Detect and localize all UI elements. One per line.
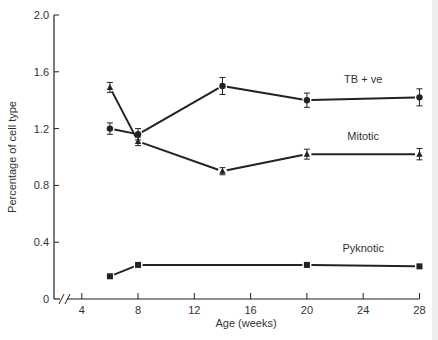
- series-label: TB + ve: [344, 73, 382, 85]
- circle-marker: [219, 83, 225, 89]
- x-tick-label: 16: [244, 304, 256, 316]
- triangle-marker: [219, 168, 225, 174]
- x-axis-label: Age (weeks): [215, 317, 276, 329]
- series-line: [311, 97, 415, 100]
- series-group: TB + veMitoticPyknotic: [107, 73, 423, 279]
- triangle-marker: [416, 151, 422, 157]
- x-tick-label: 12: [188, 304, 200, 316]
- x-tick-label: 8: [135, 304, 141, 316]
- circle-marker: [416, 94, 422, 100]
- series-mitotic: Mitotic: [107, 82, 423, 174]
- y-tick-label: 0.8: [34, 179, 49, 191]
- axes: 00.40.81.21.62.0481216202428: [34, 9, 426, 316]
- y-tick-label: 0.4: [34, 236, 49, 248]
- circle-marker: [304, 97, 310, 103]
- series-line: [227, 87, 303, 100]
- x-tick-label: 28: [413, 304, 425, 316]
- y-tick-label: 2.0: [34, 9, 49, 21]
- x-tick-label: 24: [357, 304, 369, 316]
- triangle-marker: [304, 151, 310, 157]
- series-line: [142, 143, 218, 170]
- square-marker: [304, 262, 310, 268]
- x-tick-label: 4: [79, 304, 85, 316]
- square-marker: [135, 262, 141, 268]
- circle-marker: [107, 125, 113, 131]
- line-chart: 00.40.81.21.62.0481216202428 TB + veMito…: [0, 0, 438, 340]
- y-axis-label: Percentage of cell type: [6, 101, 18, 213]
- series-line: [114, 129, 133, 133]
- series-line: [114, 267, 134, 275]
- series-label: Pyknotic: [342, 242, 384, 254]
- x-tick-label: 20: [301, 304, 313, 316]
- series-line: [142, 88, 219, 132]
- y-tick-label: 1.2: [34, 123, 49, 135]
- triangle-marker: [135, 138, 141, 144]
- y-tick-label: 0: [43, 293, 49, 305]
- series-pyknotic: Pyknotic: [107, 242, 423, 279]
- series-line: [311, 265, 415, 266]
- series-line: [227, 155, 303, 170]
- square-marker: [107, 273, 113, 279]
- y-tick-label: 1.6: [34, 66, 49, 78]
- square-marker: [416, 263, 422, 269]
- series-label: Mitotic: [347, 130, 379, 142]
- triangle-marker: [107, 84, 113, 90]
